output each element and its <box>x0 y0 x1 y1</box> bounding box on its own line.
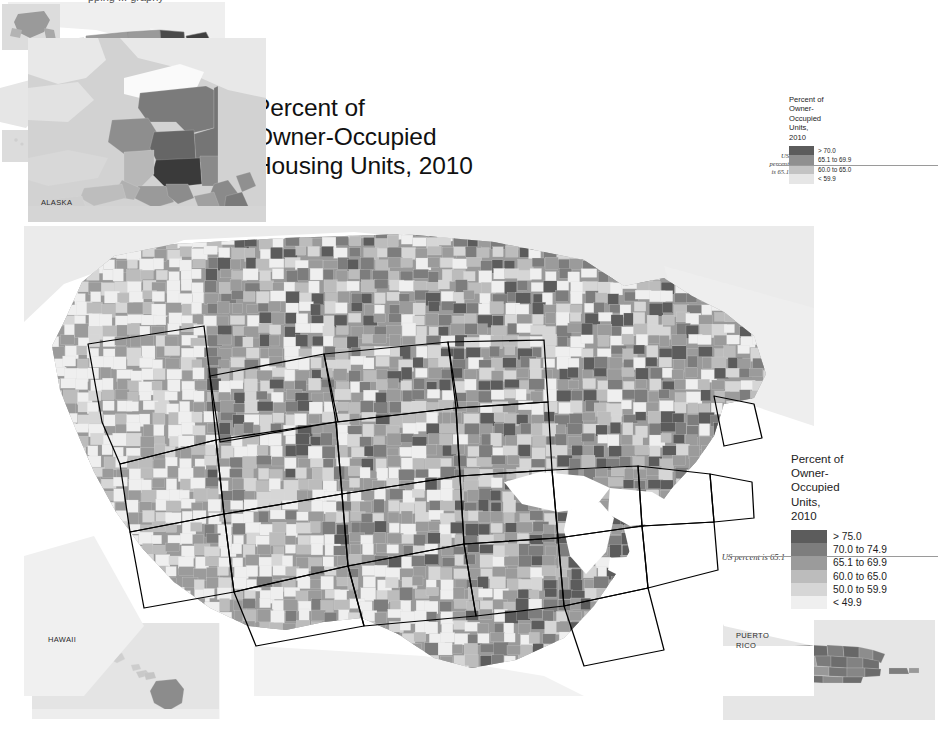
main-legend-rows: US percent is 65.1 > 75.0 70.0 to 74.9 6… <box>791 530 931 609</box>
legend-label: < 59.9 <box>814 174 836 183</box>
legend-item[interactable]: < 49.9 <box>791 596 931 609</box>
alaska-inset-map: ALASKA <box>28 38 266 222</box>
legend-label: 60.0 to 65.0 <box>814 165 851 174</box>
legend-label: < 49.9 <box>827 596 862 609</box>
main-legend-title: Percent of Owner- Occupied Units, 2010 <box>791 452 931 523</box>
legend-swatch <box>789 155 814 164</box>
legend-item[interactable]: > 75.0 <box>791 530 931 543</box>
legend-swatch <box>791 556 827 569</box>
legend-item[interactable]: 70.0 to 74.9 <box>791 543 931 556</box>
inset-legend: Percent of Owner- Occupied Units, 2010 U… <box>789 95 935 184</box>
legend-swatch <box>789 146 814 155</box>
legend-swatch <box>791 583 827 596</box>
legend-label: 70.0 to 74.9 <box>827 543 887 556</box>
legend-swatch <box>789 165 814 174</box>
legend-label: > 70.0 <box>814 146 836 155</box>
inset-legend-title: Percent of Owner- Occupied Units, 2010 <box>789 95 935 142</box>
legend-swatch <box>791 596 827 609</box>
legend-item[interactable]: 65.1 to 69.9 <box>789 155 935 164</box>
alaska-inset-label: ALASKA <box>41 198 72 208</box>
main-county-choropleth-map <box>24 226 814 696</box>
legend-swatch <box>791 570 827 583</box>
legend-label: 60.0 to 65.0 <box>827 570 887 583</box>
legend-item[interactable]: 50.0 to 59.9 <box>791 583 931 596</box>
legend-label: 65.1 to 69.9 <box>827 556 887 569</box>
hawaii-inset-label: HAWAII <box>48 635 76 645</box>
map-page: pping ... graphy Percent of Owner-Occupi… <box>0 0 938 740</box>
legend-swatch <box>791 530 827 543</box>
inset-legend-rows: US percent is 65.1 > 70.0 65.1 to 69.9 6… <box>789 146 935 184</box>
main-legend-us-rule <box>727 556 938 557</box>
legend-swatch <box>791 543 827 556</box>
cropped-header-text: pping ... graphy <box>88 0 164 3</box>
legend-item[interactable]: 65.1 to 69.9 <box>791 556 931 569</box>
legend-swatch <box>789 174 814 183</box>
puerto-rico-inset-label: PUERTO RICO <box>736 631 769 650</box>
legend-item[interactable]: 60.0 to 65.0 <box>789 165 935 174</box>
legend-item[interactable]: < 59.9 <box>789 174 935 183</box>
page-title: Percent of Owner-Occupied Housing Units,… <box>254 93 514 180</box>
legend-label: 65.1 to 69.9 <box>814 155 851 164</box>
main-legend: Percent of Owner- Occupied Units, 2010 U… <box>791 452 931 609</box>
inset-legend-us-rule <box>777 165 938 166</box>
alaska-inset-svg <box>28 38 266 222</box>
legend-item[interactable]: > 70.0 <box>789 146 935 155</box>
legend-label: > 75.0 <box>827 530 862 543</box>
legend-label: 50.0 to 59.9 <box>827 583 887 596</box>
legend-item[interactable]: 60.0 to 65.0 <box>791 570 931 583</box>
main-map-svg <box>24 226 814 696</box>
